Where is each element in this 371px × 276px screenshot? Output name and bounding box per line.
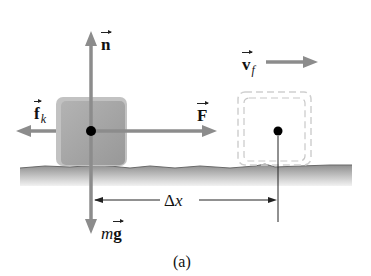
- final-velocity-label: vf: [242, 56, 255, 73]
- applied-force-label: F: [197, 107, 207, 124]
- displacement-label: Δx: [164, 192, 182, 209]
- ground-surface: [20, 164, 352, 186]
- final-velocity-arrow: [266, 56, 318, 68]
- friction-force-label: fk: [34, 105, 46, 122]
- free-body-diagram: n fk F mg vf Δx (a): [0, 0, 371, 276]
- diagram-canvas: [0, 0, 371, 276]
- normal-force-label: n: [101, 36, 110, 53]
- figure-caption: (a): [173, 254, 191, 270]
- displacement-dimension: [94, 197, 277, 203]
- center-of-mass-final: [274, 127, 283, 136]
- friction-force-arrow: [16, 125, 56, 137]
- weight-label: mg: [101, 225, 122, 242]
- center-of-mass-initial: [86, 126, 96, 136]
